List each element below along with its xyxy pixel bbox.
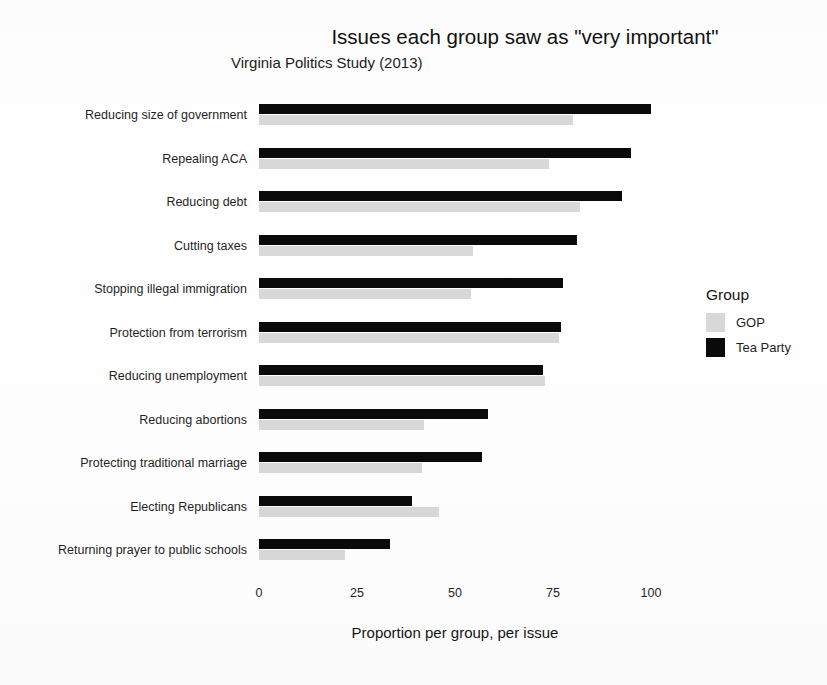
category-label: Reducing unemployment (109, 364, 247, 388)
bar-gop (259, 289, 471, 299)
bar-group: Repealing ACA (259, 148, 651, 172)
x-axis: 0255075100 (259, 586, 651, 608)
bar-group: Reducing abortions (259, 409, 651, 433)
chart-subtitle: Virginia Politics Study (2013) (231, 53, 819, 73)
legend-title: Group (706, 286, 818, 304)
bar-gop (259, 376, 545, 386)
bar-group: Stopping illegal immigration (259, 278, 651, 302)
bar-tea-party (259, 148, 631, 158)
bar-group: Returning prayer to public schools (259, 539, 651, 563)
bar-tea-party (259, 452, 482, 462)
category-label: Protecting traditional marriage (80, 451, 247, 475)
bar-tea-party (259, 409, 488, 419)
x-tick-label: 0 (256, 586, 263, 600)
category-label: Reducing abortions (139, 408, 247, 432)
legend-swatch-tea-party (706, 338, 725, 357)
bar-gop (259, 202, 580, 212)
legend-item: Tea Party (706, 338, 818, 357)
legend: Group GOPTea Party (706, 286, 818, 363)
bar-tea-party (259, 365, 543, 375)
bar-gop (259, 333, 559, 343)
bar-group: Reducing debt (259, 191, 651, 215)
category-label: Protection from terrorism (109, 321, 247, 345)
plot-area: Reducing size of governmentRepealing ACA… (259, 96, 651, 584)
x-tick-label: 100 (641, 586, 662, 600)
bar-chart: Issues each group saw as "very important… (0, 0, 827, 685)
bar-gop (259, 115, 573, 125)
bar-group: Protection from terrorism (259, 322, 651, 346)
bar-gop (259, 507, 439, 517)
category-label: Reducing debt (166, 190, 247, 214)
legend-label: GOP (736, 315, 765, 330)
x-tick-label: 50 (448, 586, 462, 600)
bar-gop (259, 550, 345, 560)
legend-item: GOP (706, 313, 818, 332)
category-label: Stopping illegal immigration (94, 277, 247, 301)
x-axis-title: Proportion per group, per issue (259, 624, 651, 641)
chart-title: Issues each group saw as "very important… (231, 24, 819, 49)
category-label: Reducing size of government (85, 103, 247, 127)
bar-tea-party (259, 322, 561, 332)
category-label: Repealing ACA (162, 147, 247, 171)
bar-group: Cutting taxes (259, 235, 651, 259)
bar-group: Reducing size of government (259, 104, 651, 128)
bar-gop (259, 246, 473, 256)
legend-swatch-gop (706, 313, 725, 332)
legend-items: GOPTea Party (706, 313, 818, 357)
category-label: Electing Republicans (130, 495, 247, 519)
bar-group: Reducing unemployment (259, 365, 651, 389)
category-label: Cutting taxes (174, 234, 247, 258)
bar-tea-party (259, 539, 390, 549)
bar-gop (259, 463, 422, 473)
x-tick-label: 25 (350, 586, 364, 600)
bar-group: Electing Republicans (259, 496, 651, 520)
bar-tea-party (259, 235, 577, 245)
bar-tea-party (259, 191, 622, 201)
bar-tea-party (259, 278, 563, 288)
bar-gop (259, 159, 549, 169)
title-block: Issues each group saw as "very important… (259, 24, 819, 73)
bar-tea-party (259, 496, 412, 506)
bar-group: Protecting traditional marriage (259, 452, 651, 476)
category-label: Returning prayer to public schools (58, 538, 247, 562)
bar-tea-party (259, 104, 651, 114)
x-tick-label: 75 (546, 586, 560, 600)
bar-gop (259, 420, 424, 430)
legend-label: Tea Party (736, 340, 791, 355)
